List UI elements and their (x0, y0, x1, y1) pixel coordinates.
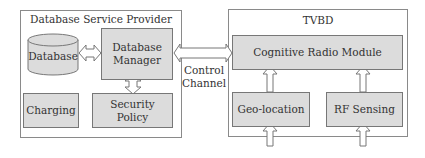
geo-location-box: Geo-location (232, 92, 310, 127)
rf-sensing-box: RF Sensing (326, 92, 403, 127)
control-channel-label-line2: Channel (178, 77, 230, 90)
rf-sensing-label: RF Sensing (334, 103, 395, 116)
database-manager-label-line1: Database (112, 41, 162, 54)
cognitive-radio-module-box: Cognitive Radio Module (232, 35, 403, 70)
database-manager-box: Database Manager (101, 28, 173, 80)
charging-label: Charging (26, 104, 76, 117)
geo-location-label: Geo-location (238, 103, 305, 116)
control-channel-label-line1: Control (178, 64, 230, 77)
control-channel-arrow-icon (174, 44, 232, 62)
double-arrow-icon (79, 45, 101, 61)
charging-box: Charging (23, 93, 79, 128)
security-policy-box: Security Policy (92, 93, 173, 128)
control-channel-label: Control Channel (178, 64, 230, 90)
database-manager-label-line2: Manager (113, 54, 161, 67)
database-label: Database (28, 50, 78, 63)
cognitive-radio-module-label: Cognitive Radio Module (253, 46, 382, 59)
security-policy-label: Security Policy (93, 98, 172, 124)
